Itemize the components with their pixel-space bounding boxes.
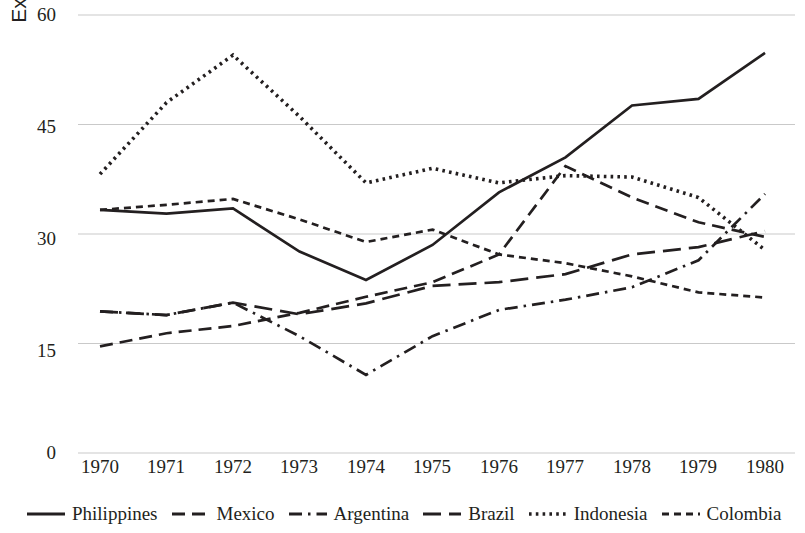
legend-label: Argentina (334, 503, 410, 525)
legend-swatch-brazil (422, 507, 462, 521)
legend-entry-brazil[interactable]: Brazil (422, 503, 514, 525)
legend-label: Colombia (707, 503, 782, 525)
legend-swatch-mexico (171, 507, 211, 521)
chart-legend: PhilippinesMexicoArgentinaBrazilIndonesi… (26, 500, 786, 528)
series-line-indonesia (100, 55, 765, 250)
chart-figure: External debt (% GNI) 60 45 30 15 0 1970… (0, 0, 805, 533)
gridlines (78, 15, 795, 453)
series-line-mexico (100, 166, 765, 346)
legend-label: Philippines (72, 503, 158, 525)
legend-entry-argentina[interactable]: Argentina (288, 503, 410, 525)
legend-entry-indonesia[interactable]: Indonesia (528, 503, 648, 525)
legend-label: Mexico (217, 503, 275, 525)
series-lines (100, 53, 765, 375)
legend-swatch-argentina (288, 507, 328, 521)
legend-label: Indonesia (574, 503, 648, 525)
legend-entry-philippines[interactable]: Philippines (26, 503, 158, 525)
legend-entry-mexico[interactable]: Mexico (171, 503, 275, 525)
series-line-philippines (100, 53, 765, 280)
legend-swatch-philippines (26, 507, 66, 521)
plot-area (0, 0, 805, 533)
legend-entry-colombia[interactable]: Colombia (661, 503, 782, 525)
legend-label: Brazil (468, 503, 514, 525)
legend-swatch-indonesia (528, 507, 568, 521)
series-line-colombia (100, 199, 765, 298)
legend-swatch-colombia (661, 507, 701, 521)
